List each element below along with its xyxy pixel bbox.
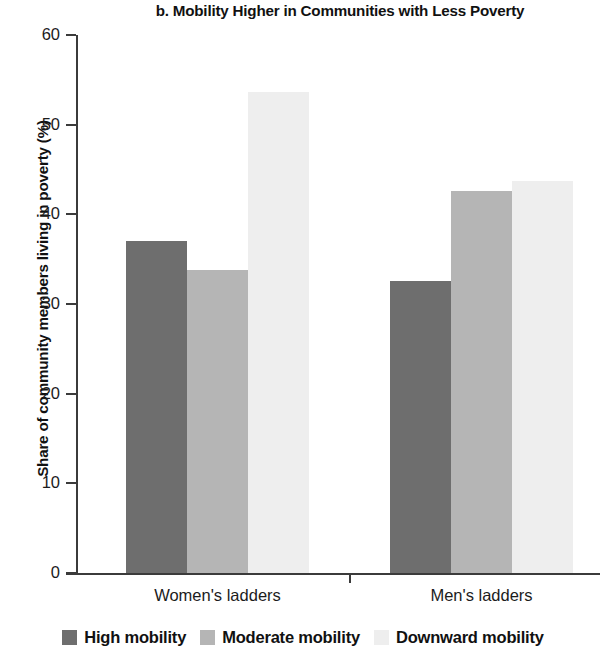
bar [187,270,248,573]
y-axis-tick-label: 50 [0,116,60,132]
bar [390,281,451,573]
y-axis-tick-label: 60 [0,26,60,42]
legend-item-moderate-mobility: Moderate mobility [200,628,360,647]
plot-area [76,35,600,573]
legend-label-high-mobility: High mobility [84,628,186,647]
y-axis-tick-mark [66,303,76,305]
legend-label-moderate-mobility: Moderate mobility [222,628,360,647]
bar [451,191,512,573]
legend-swatch-icon-downward-mobility [374,630,389,645]
y-axis-tick-mark [66,34,76,36]
y-axis-tick-label: 0 [0,564,60,580]
legend-swatch-icon-high-mobility [62,630,77,645]
category-label-women: Women's ladders [86,586,349,605]
bar [512,181,573,573]
legend-item-downward-mobility: Downward mobility [374,628,544,647]
legend-item-high-mobility: High mobility [62,628,186,647]
category-label-men: Men's ladders [350,586,606,605]
y-axis-tick-label: 20 [0,385,60,401]
y-axis-tick-label: 30 [0,295,60,311]
legend-label-downward-mobility: Downward mobility [396,628,544,647]
legend-swatch-icon-moderate-mobility [200,630,215,645]
y-axis-tick-label: 10 [0,474,60,490]
chart-title: b. Mobility Higher in Communities with L… [80,1,600,21]
chart-legend: High mobility Moderate mobility Downward… [0,628,606,647]
bar [126,241,187,573]
bar-chart-figure: b. Mobility Higher in Communities with L… [0,0,606,653]
y-axis-tick-mark [66,572,76,574]
y-axis-tick-mark [66,124,76,126]
bar [248,92,309,573]
x-axis-line [66,573,600,575]
y-axis-tick-mark [66,393,76,395]
y-axis-tick-label: 40 [0,205,60,221]
y-axis-tick-mark [66,482,76,484]
y-axis-tick-mark [66,213,76,215]
x-axis-tick-divider [349,573,351,583]
